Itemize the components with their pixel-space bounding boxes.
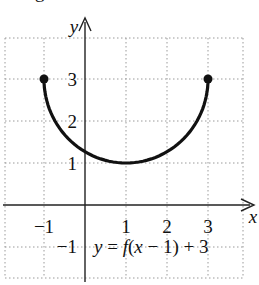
svg-text:3: 3 — [68, 69, 78, 90]
svg-text:2: 2 — [68, 111, 78, 132]
svg-text:2: 2 — [162, 216, 172, 237]
svg-text:−1: −1 — [34, 216, 54, 237]
chart-svg: g.yx−1123321−1y = f(x − 1) + 3 — [0, 0, 259, 285]
svg-text:x: x — [248, 206, 258, 227]
equation-label: y = f(x − 1) + 3 — [92, 236, 208, 258]
svg-text:y: y — [68, 16, 79, 37]
labels: g.yx−1123321−1y = f(x − 1) + 3 — [34, 0, 258, 258]
svg-text:3: 3 — [203, 216, 213, 237]
svg-text:1: 1 — [68, 153, 78, 174]
chart: g.yx−1123321−1y = f(x − 1) + 3 — [0, 0, 259, 285]
svg-text:−1: −1 — [57, 236, 77, 257]
svg-text:g.: g. — [35, 0, 49, 2]
svg-text:1: 1 — [121, 216, 131, 237]
